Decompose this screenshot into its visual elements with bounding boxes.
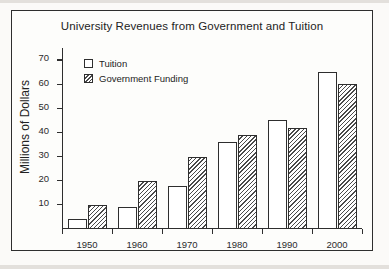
y-tick-label-60: 60 xyxy=(38,77,49,88)
y-tick-20: 20 xyxy=(57,180,62,181)
bar-tuition-1990 xyxy=(268,120,287,229)
y-axis-label-text: Millions of Dollars xyxy=(18,52,32,202)
x-tick-label-1970: 1970 xyxy=(176,239,197,250)
bar-government-funding-1980 xyxy=(238,135,257,229)
plot-area: 10203040506070 195019601970198019902000 xyxy=(62,48,362,229)
y-tick-label-70: 70 xyxy=(38,52,49,63)
y-axis-line xyxy=(62,48,63,229)
y-tick-label-40: 40 xyxy=(38,125,49,136)
x-tick-end xyxy=(362,229,363,234)
x-tick-1970 xyxy=(162,229,163,234)
x-tick-label-2000: 2000 xyxy=(326,239,347,250)
x-tick-label-1960: 1960 xyxy=(126,239,147,250)
y-tick-70: 70 xyxy=(57,59,62,60)
scan-edge-top xyxy=(0,0,389,3)
x-tick-label-1980: 1980 xyxy=(226,239,247,250)
y-tick-50: 50 xyxy=(57,108,62,109)
y-tick-30: 30 xyxy=(57,156,62,157)
bar-government-funding-1990 xyxy=(288,128,307,229)
y-tick-label-50: 50 xyxy=(38,101,49,112)
x-tick-1990 xyxy=(262,229,263,234)
y-tick-label-30: 30 xyxy=(38,149,49,160)
y-tick-60: 60 xyxy=(57,84,62,85)
bar-government-funding-1960 xyxy=(138,181,157,229)
bar-tuition-1980 xyxy=(218,142,237,229)
y-tick-label-20: 20 xyxy=(38,173,49,184)
y-tick-10: 10 xyxy=(57,204,62,205)
chart-title: University Revenues from Government and … xyxy=(12,20,372,32)
bar-tuition-2000 xyxy=(318,72,337,229)
chart-page: University Revenues from Government and … xyxy=(0,0,389,269)
bar-government-funding-1950 xyxy=(88,205,107,229)
bar-tuition-1960 xyxy=(118,207,137,229)
x-tick-2000 xyxy=(312,229,313,234)
bar-government-funding-1970 xyxy=(188,157,207,229)
x-tick-1980 xyxy=(212,229,213,234)
x-tick-1960 xyxy=(112,229,113,234)
x-tick-label-1950: 1950 xyxy=(76,239,97,250)
y-tick-40: 40 xyxy=(57,132,62,133)
x-tick-label-1990: 1990 xyxy=(276,239,297,250)
scan-edge-bottom xyxy=(0,265,389,269)
bar-tuition-1970 xyxy=(168,186,187,229)
y-tick-label-10: 10 xyxy=(38,197,49,208)
x-tick-1950 xyxy=(62,229,63,234)
y-axis-label: Millions of Dollars xyxy=(18,0,32,52)
bar-tuition-1950 xyxy=(68,219,87,229)
bar-government-funding-2000 xyxy=(338,84,357,229)
